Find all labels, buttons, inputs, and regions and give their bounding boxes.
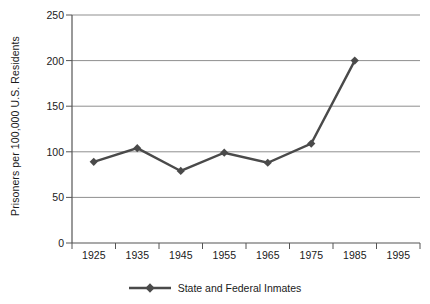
data-point-marker <box>177 167 185 175</box>
data-point-marker <box>307 139 315 147</box>
x-tick-label-1995: 1995 <box>387 249 410 261</box>
legend-label-state-and-federal-inmates: State and Federal Inmates <box>178 282 302 294</box>
series-markers <box>90 57 359 176</box>
x-tick-label-1935: 1935 <box>126 249 149 261</box>
chart-legend: State and Federal Inmates <box>0 282 430 294</box>
data-point-marker <box>133 144 141 152</box>
axis-lines <box>72 15 420 243</box>
x-tick-label-1965: 1965 <box>256 249 279 261</box>
legend-marker-icon <box>129 282 171 294</box>
x-tick-label-1945: 1945 <box>169 249 192 261</box>
x-axis-ticks <box>72 243 420 249</box>
gridlines <box>72 15 420 197</box>
y-axis-ticks <box>66 15 72 243</box>
data-point-marker <box>90 158 98 166</box>
chart-container: Prisoners per 100,000 U.S. Residents 0 5… <box>0 0 430 304</box>
data-point-marker <box>220 149 228 157</box>
x-tick-label-1925: 1925 <box>82 249 105 261</box>
x-tick-label-1975: 1975 <box>300 249 323 261</box>
data-point-marker <box>264 159 272 167</box>
x-tick-label-1985: 1985 <box>343 249 366 261</box>
data-point-marker <box>351 57 359 65</box>
x-tick-label-1955: 1955 <box>213 249 236 261</box>
